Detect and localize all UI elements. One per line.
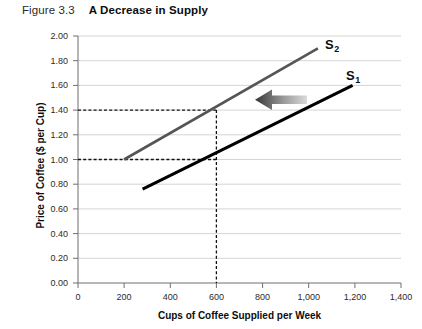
curve-label-s2: S2 bbox=[325, 37, 339, 52]
x-tick-200: 200 bbox=[117, 292, 132, 302]
curve-label-s1-subscript: 1 bbox=[355, 75, 360, 85]
x-tick-1400: 1,400 bbox=[390, 292, 413, 302]
x-axis-title: Cups of Coffee Supplied per Week bbox=[78, 310, 401, 321]
curve-label-s2-text: S bbox=[325, 37, 334, 52]
shift-arrow-icon bbox=[255, 90, 307, 111]
curve-label-s2-subscript: 2 bbox=[334, 44, 339, 54]
x-axis-ticks bbox=[78, 283, 401, 288]
reference-guides bbox=[78, 110, 216, 283]
x-tick-1000: 1,000 bbox=[297, 292, 320, 302]
curve-label-s1: S1 bbox=[346, 68, 360, 83]
x-tick-400: 400 bbox=[163, 292, 178, 302]
curve-label-s1-text: S bbox=[346, 68, 355, 83]
y-axis-ticks bbox=[73, 36, 78, 283]
y-tick-2.00: 2.00 bbox=[38, 31, 68, 41]
x-tick-0: 0 bbox=[75, 292, 80, 302]
y-axis-title: Price of Coffee ($ per Cup) bbox=[35, 56, 46, 276]
supply-curve-s1 bbox=[143, 85, 353, 189]
y-tick-0.00: 0.00 bbox=[38, 278, 68, 288]
supply-chart: Figure 3.3 A Decrease in Supply bbox=[0, 0, 422, 329]
x-tick-600: 600 bbox=[209, 292, 224, 302]
x-tick-800: 800 bbox=[255, 292, 270, 302]
x-tick-1200: 1,200 bbox=[344, 292, 367, 302]
